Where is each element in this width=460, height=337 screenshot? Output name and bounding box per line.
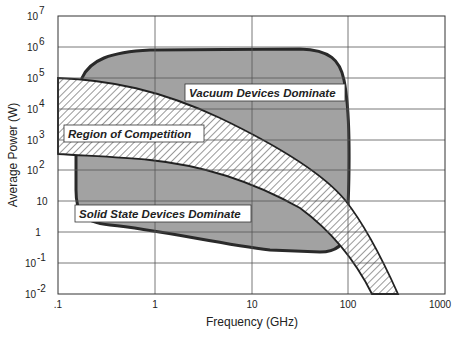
svg-text:2: 2 [39, 159, 45, 170]
y-tick-labels: 107 106 105 104 103 102 10 1 10-1 10-2 [25, 5, 48, 300]
svg-text:10: 10 [36, 196, 48, 207]
svg-text:10: 10 [27, 73, 39, 84]
svg-text:4: 4 [39, 98, 45, 109]
svg-text:10: 10 [27, 135, 39, 146]
label-competition: Region of Competition [64, 125, 204, 142]
svg-text:10: 10 [25, 289, 37, 300]
svg-text:5: 5 [39, 67, 45, 78]
svg-text:10: 10 [246, 299, 258, 310]
svg-text:100: 100 [340, 299, 357, 310]
x-tick-labels: .1 1 10 100 1000 [54, 299, 452, 310]
svg-text:10: 10 [27, 165, 39, 176]
label-solid-state: Solid State Devices Dominate [75, 205, 251, 222]
svg-text:1: 1 [152, 299, 158, 310]
svg-text:7: 7 [39, 5, 45, 16]
svg-text:1: 1 [35, 227, 41, 238]
svg-text:1000: 1000 [429, 299, 452, 310]
svg-text:Vacuum Devices Dominate: Vacuum Devices Dominate [189, 87, 336, 99]
svg-text:-1: -1 [37, 252, 46, 263]
svg-text:10: 10 [27, 104, 39, 115]
label-vacuum: Vacuum Devices Dominate [185, 84, 345, 101]
svg-text:-2: -2 [37, 283, 46, 294]
svg-text:10: 10 [27, 11, 39, 22]
svg-text:Region of Competition: Region of Competition [68, 128, 191, 140]
svg-text:.1: .1 [54, 299, 63, 310]
x-axis-label: Frequency (GHz) [206, 315, 298, 329]
y-axis-label: Average Power (W) [6, 103, 20, 207]
svg-text:10: 10 [25, 258, 37, 269]
svg-text:3: 3 [39, 129, 45, 140]
chart: Vacuum Devices Dominate Region of Compet… [0, 0, 460, 337]
svg-text:10: 10 [27, 42, 39, 53]
svg-text:Solid State Devices Dominate: Solid State Devices Dominate [79, 208, 241, 220]
svg-text:6: 6 [39, 36, 45, 47]
